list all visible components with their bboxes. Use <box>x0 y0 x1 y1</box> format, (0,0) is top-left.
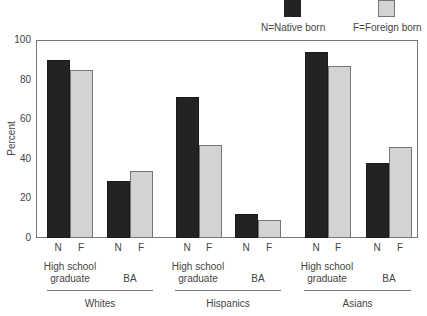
bar-label-n: N <box>176 242 198 253</box>
y-tick-60: 60 <box>7 113 31 124</box>
y-tick-40: 40 <box>7 153 31 164</box>
bar-native <box>176 97 199 238</box>
bar-foreign <box>130 171 153 238</box>
subcategory-line1: High school <box>40 261 100 273</box>
bar-label-n: N <box>305 242 327 253</box>
subcategory-ba-hispanics: BA <box>238 273 278 285</box>
legend-native-swatch <box>284 0 301 17</box>
bar-native <box>305 52 328 238</box>
subcategory-line1: High school <box>168 261 228 273</box>
bar-label-n: N <box>366 242 388 253</box>
subcategory-ba-asians: BA <box>369 273 409 285</box>
bar-foreign <box>258 220 281 238</box>
bar-label-f: F <box>258 242 280 253</box>
bar-label-n: N <box>107 242 129 253</box>
legend-native-label: N=Native born <box>261 22 325 33</box>
group-label-hispanics: Hispanics <box>175 298 281 309</box>
y-tick-80: 80 <box>7 74 31 85</box>
subcategory-ba-whites: BA <box>110 273 150 285</box>
bar-native <box>366 163 389 238</box>
subcategory-hs-whites: High school graduate <box>40 261 100 285</box>
legend-foreign-label: F=Foreign born <box>353 22 422 33</box>
legend-foreign-swatch <box>378 0 395 17</box>
subcategory-line1: High school <box>297 261 357 273</box>
subcategory-line2: graduate <box>168 273 228 285</box>
y-tick-100: 100 <box>7 34 31 45</box>
group-divider-hispanics <box>175 290 281 291</box>
plot-area <box>36 40 418 238</box>
y-tick-0: 0 <box>7 232 31 243</box>
bar-label-f: F <box>198 242 220 253</box>
bar-label-f: F <box>389 242 411 253</box>
subcategory-line2: graduate <box>297 273 357 285</box>
bar-label-f: F <box>70 242 92 253</box>
bar-native <box>107 181 130 238</box>
subcategory-hs-hispanics: High school graduate <box>168 261 228 285</box>
y-tick-20: 20 <box>7 192 31 203</box>
bar-native <box>235 214 258 238</box>
bar-foreign <box>199 145 222 238</box>
bar-label-n: N <box>235 242 257 253</box>
bar-foreign <box>70 70 93 238</box>
subcategory-hs-asians: High school graduate <box>297 261 357 285</box>
group-divider-asians <box>304 290 411 291</box>
group-label-whites: Whites <box>47 298 153 309</box>
subcategory-line2: graduate <box>40 273 100 285</box>
bar-label-n: N <box>47 242 69 253</box>
bar-label-f: F <box>130 242 152 253</box>
group-label-asians: Asians <box>304 298 411 309</box>
group-divider-whites <box>47 290 153 291</box>
bar-foreign <box>389 147 412 238</box>
bar-label-f: F <box>327 242 349 253</box>
bar-native <box>47 60 70 238</box>
bar-foreign <box>328 66 351 238</box>
